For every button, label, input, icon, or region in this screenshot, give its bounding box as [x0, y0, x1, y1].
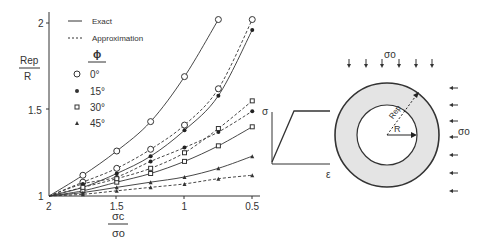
svg-text:0.5: 0.5 — [245, 201, 259, 212]
svg-text:30°: 30° — [90, 102, 105, 113]
svg-text:ϕ: ϕ — [93, 48, 101, 60]
svg-text:σo: σo — [458, 126, 470, 137]
svg-text:ε: ε — [326, 169, 331, 180]
figure: 21.510.511.52 Rep R σc σo Exact Approxim… — [0, 0, 486, 247]
data-series — [49, 17, 255, 197]
svg-text:σc: σc — [112, 210, 125, 222]
svg-text:R: R — [394, 124, 401, 134]
stress-strain-diagram: σ ε — [262, 106, 331, 180]
svg-text:2: 2 — [38, 18, 44, 29]
svg-text:σo: σo — [384, 49, 396, 60]
svg-text:1: 1 — [182, 201, 188, 212]
svg-text:0°: 0° — [90, 69, 100, 80]
svg-text:2: 2 — [46, 201, 52, 212]
svg-text:45°: 45° — [90, 118, 105, 129]
svg-text:σo: σo — [112, 227, 125, 239]
svg-text:σ: σ — [262, 106, 269, 117]
svg-text:15°: 15° — [90, 86, 105, 97]
svg-text:Rep: Rep — [20, 55, 39, 66]
svg-text:R: R — [24, 71, 31, 82]
svg-text:1.5: 1.5 — [28, 105, 42, 116]
svg-text:Exact: Exact — [92, 17, 113, 26]
legend: Exact Approximation ϕ 0° 15° 30° 45° — [68, 17, 143, 129]
svg-text:1: 1 — [38, 191, 44, 202]
svg-text:Approximation: Approximation — [92, 34, 143, 43]
y-axis-label: Rep R — [19, 55, 40, 82]
tunnel-diagram: R Rep σo σo — [335, 49, 470, 193]
x-axis-label: σc σo — [108, 210, 128, 239]
